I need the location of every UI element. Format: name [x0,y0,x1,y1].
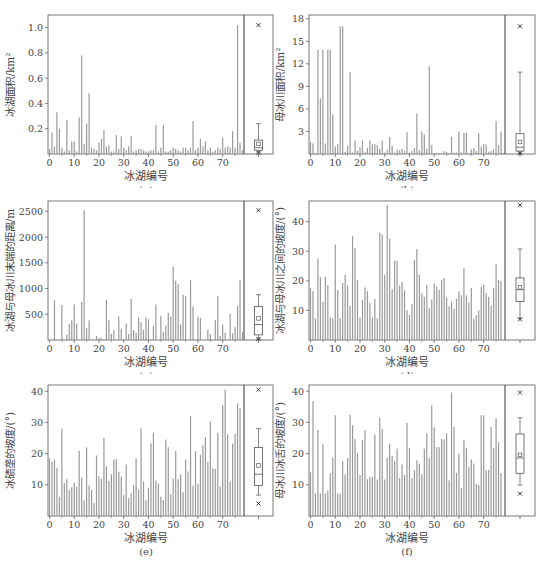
y-tick-label: 2000 [19,232,43,243]
bar [84,210,85,340]
bar [173,267,174,340]
bar [441,439,442,516]
bar [372,477,373,516]
x-tick-label: 0 [307,343,313,354]
bar [230,314,231,340]
bar [332,114,333,154]
outlier-marker [518,203,522,207]
bar [453,152,454,154]
bar [349,72,350,154]
bar [111,334,112,340]
bar [424,297,425,340]
bar [217,433,218,516]
bar [310,142,311,154]
bar [439,290,440,340]
bar [446,297,447,340]
bar [108,320,109,340]
bar [379,233,380,340]
y-tick-label: 30 [292,417,304,428]
bar [468,153,469,154]
y-tick-label: 6 [298,103,304,114]
x-tick-label: 70 [478,343,490,354]
box-plot [255,208,263,341]
bar [397,449,398,516]
bar [183,148,184,154]
bar [362,140,363,154]
y-tick-label: 12 [292,58,304,69]
bar [498,442,499,516]
bar [126,465,127,516]
y-axis-label: 冰湖与母冰川之间的坡度/(°) [274,207,286,334]
bar [446,433,447,516]
bar [448,306,449,340]
bar [160,316,161,340]
bar [234,148,235,154]
x-tick-label: 20 [93,157,105,168]
bar [312,143,313,154]
bar [431,405,432,516]
bar [175,451,176,516]
bar [202,445,203,516]
chart-svg: 10203040010203040506070冰湖编号(e)冰碛垄的坡度/(°) [0,370,275,563]
bar [359,318,360,340]
bar [320,277,321,340]
bar [205,141,206,154]
bar [349,306,350,340]
bar [322,444,323,516]
bar [76,324,77,340]
bar [337,290,338,340]
chart-f: 10203040010203040506070冰湖编号(f)母冰川冰舌的坡度/(… [272,370,545,563]
bar [473,464,474,516]
bar [143,482,144,516]
bar [242,150,243,154]
bar [74,141,75,154]
bar [414,470,415,516]
bar [91,148,92,154]
bar [481,415,482,516]
bar [369,477,370,516]
bar [421,474,422,516]
bar [325,277,326,340]
bar [493,149,494,154]
bar [453,427,454,516]
bar [234,434,235,516]
x-tick-label: 30 [379,343,391,354]
bar [54,300,55,340]
bar [222,138,223,154]
bar [106,300,107,340]
bar [173,479,174,516]
bar [483,285,484,340]
outlier-marker [518,492,522,496]
bar [51,462,52,516]
bar [352,236,353,340]
bar [335,244,336,340]
bar [317,259,318,340]
bar [81,302,82,340]
bar [168,151,169,154]
bar [364,152,365,154]
bar [217,148,218,154]
bar [419,150,420,154]
bar [315,493,316,516]
bar [315,318,316,340]
bar [111,151,112,154]
bars [310,26,504,154]
bar [49,149,50,154]
bar [389,239,390,340]
bar [136,458,137,516]
bar [468,467,469,516]
bar [165,151,166,154]
bar [362,440,363,516]
x-tick-label: 60 [192,519,204,530]
bar [225,390,226,516]
bar [481,287,482,340]
y-tick-label: 40 [292,386,304,397]
bar [478,310,479,340]
bar [456,152,457,154]
bar [71,141,72,154]
bar [168,447,169,516]
bar [401,282,402,340]
bar [382,140,383,154]
bar [170,150,171,154]
bar [498,280,499,340]
